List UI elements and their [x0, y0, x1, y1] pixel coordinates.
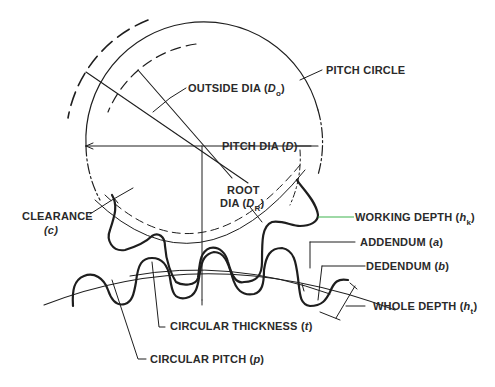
root-circle [108, 44, 196, 112]
pitch-circle-label: PITCH CIRCLE [326, 64, 405, 76]
dedendum-label: DEDENDUM (b) [366, 260, 449, 272]
circular-pitch-label: CIRCULAR PITCH (p) [150, 353, 264, 365]
whole-depth-label: WHOLE DEPTH (ht) [373, 300, 477, 314]
working-depth-label: WORKING DEPTH (hk) [355, 211, 475, 225]
addendum-label: ADDENDUM (a) [360, 236, 443, 248]
gear-nomenclature-diagram: PITCH CIRCLE OUTSIDE DIA (Do) PITCH DIA … [0, 0, 495, 387]
circular-thickness-label: CIRCULAR THICKNESS (t) [170, 320, 313, 332]
pitch-dia-label: PITCH DIA (D) [222, 140, 298, 152]
outside-circle [68, 20, 148, 118]
clearance-label: CLEARANCE (c) [22, 209, 93, 237]
outside-dia-label: OUTSIDE DIA (Do) [188, 82, 285, 96]
root-dia-label: ROOT DIA (DR) [220, 184, 264, 211]
lower-gear-teeth [73, 248, 348, 306]
